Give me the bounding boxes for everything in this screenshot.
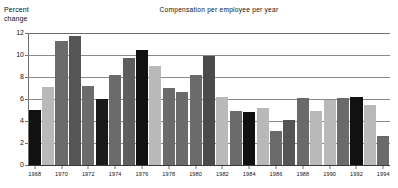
bar-slot [162,33,175,165]
bar-slot [363,33,376,165]
bar-1987 [283,120,295,165]
x-tick-mark-1978 [168,166,169,169]
bar-slot [28,33,41,165]
chart-figure: Percent change Compensation per employee… [0,0,398,188]
x-tick-label-1980: 1980 [189,171,202,177]
y-tick-label-12: 12 [2,29,24,36]
bar-1974 [109,75,121,165]
bar-1981 [203,56,215,165]
x-tick-label-1982: 1982 [216,171,229,177]
bar-1992 [350,97,362,165]
bar-slot [55,33,68,165]
bar-1985 [257,108,269,165]
bar-slot [189,33,202,165]
x-tick-mark-1968 [34,166,35,169]
x-tick-mark-1992 [356,166,357,169]
x-tick-label-1970: 1970 [55,171,68,177]
bar-slot [95,33,108,165]
x-tick-label-1968: 1968 [28,171,41,177]
bar-1982 [216,97,228,165]
bar-slot [350,33,363,165]
plot-area [28,33,390,165]
bar-1973 [96,99,108,165]
y-tick-label-10: 10 [2,51,24,58]
bar-1988 [297,98,309,165]
bar-1984 [243,112,255,165]
bar-series [28,33,390,165]
y-tick-mark-2 [25,143,28,144]
bar-slot [336,33,349,165]
y-tick-label-0: 0 [2,161,24,168]
x-tick-mark-1984 [249,166,250,169]
x-tick-mark-1970 [61,166,62,169]
bar-1991 [337,98,349,165]
bar-slot [283,33,296,165]
x-tick-label-1986: 1986 [270,171,283,177]
x-tick-mark-1994 [383,166,384,169]
x-tick-mark-1986 [276,166,277,169]
bar-1989 [310,111,322,165]
x-tick-label-1978: 1978 [162,171,175,177]
x-tick-label-1994: 1994 [377,171,390,177]
bar-1975 [123,58,135,165]
bar-slot [149,33,162,165]
bar-slot [377,33,390,165]
x-tick-label-1984: 1984 [243,171,256,177]
x-tick-mark-1974 [115,166,116,169]
x-tick-mark-1990 [329,166,330,169]
bar-slot [310,33,323,165]
y-tick-mark-12 [25,33,28,34]
bar-slot [175,33,188,165]
y-tick-mark-10 [25,55,28,56]
bar-1970 [55,41,67,165]
bar-1993 [364,105,376,166]
bar-1971 [69,36,81,165]
bar-slot [296,33,309,165]
y-tick-mark-6 [25,99,28,100]
x-tick-label-1976: 1976 [136,171,149,177]
x-tick-mark-1988 [302,166,303,169]
bar-1986 [270,131,282,165]
bar-1977 [149,66,161,165]
bar-1968 [29,110,41,165]
bar-1972 [82,86,94,165]
y-tick-label-2: 2 [2,139,24,146]
x-tick-mark-1980 [195,166,196,169]
x-tick-label-1974: 1974 [109,171,122,177]
x-tick-mark-1982 [222,166,223,169]
bar-1978 [163,88,175,165]
bar-slot [256,33,269,165]
bar-1983 [230,111,242,165]
bar-slot [41,33,54,165]
x-tick-label-1972: 1972 [82,171,95,177]
bar-1979 [176,92,188,165]
y-tick-mark-4 [25,121,28,122]
bar-1994 [377,136,389,165]
bar-1969 [42,87,54,165]
bar-slot [68,33,81,165]
y-tick-mark-8 [25,77,28,78]
bar-1980 [190,75,202,165]
bar-1976 [136,50,148,166]
bar-slot [269,33,282,165]
x-tick-label-1988: 1988 [296,171,309,177]
bar-slot [216,33,229,165]
bar-slot [202,33,215,165]
y-tick-label-8: 8 [2,73,24,80]
chart-title: Compensation per employee per year [0,6,398,13]
bar-1990 [324,100,336,165]
x-tick-mark-1976 [141,166,142,169]
y-tick-label-4: 4 [2,117,24,124]
bar-slot [243,33,256,165]
bar-slot [108,33,121,165]
x-tick-label-1992: 1992 [350,171,363,177]
y-tick-label-6: 6 [2,95,24,102]
bar-slot [82,33,95,165]
bar-slot [122,33,135,165]
x-tick-label-1990: 1990 [323,171,336,177]
bar-slot [323,33,336,165]
bar-slot [229,33,242,165]
x-axis: 1968197019721974197619781980198219841986… [28,166,390,186]
bar-slot [135,33,148,165]
x-tick-mark-1972 [88,166,89,169]
